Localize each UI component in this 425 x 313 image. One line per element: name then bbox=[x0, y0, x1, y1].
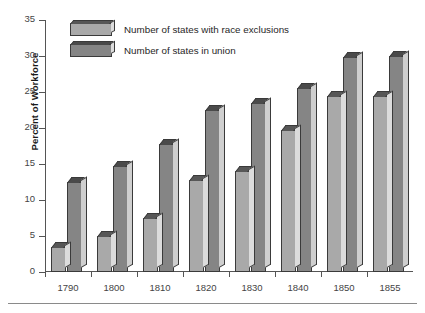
y-tick-label: 25 bbox=[11, 85, 35, 96]
y-tick-label: 10 bbox=[11, 193, 35, 204]
y-tick-mark bbox=[39, 164, 46, 165]
bar-side-face bbox=[403, 51, 409, 268]
y-tick-mark bbox=[39, 20, 46, 21]
swatch-top-face bbox=[70, 41, 114, 45]
bar-1800-race-exclusions bbox=[97, 236, 112, 272]
x-tick-mark bbox=[183, 271, 184, 277]
x-tick-mark bbox=[229, 271, 230, 277]
bar-side-face bbox=[265, 97, 271, 268]
bar-1855-race-exclusions bbox=[373, 96, 388, 272]
legend-swatch-race-exclusions bbox=[70, 23, 112, 36]
swatch-side-face bbox=[111, 40, 115, 53]
x-tick-label: 1840 bbox=[275, 282, 321, 293]
legend-label-states-in-union: Number of states in union bbox=[124, 45, 236, 56]
bar-1820-race-exclusions bbox=[189, 180, 204, 272]
x-tick-mark bbox=[91, 271, 92, 277]
y-tick-label: 30 bbox=[11, 49, 35, 60]
bar-1840-race-exclusions bbox=[281, 130, 296, 272]
y-tick: 30 bbox=[39, 56, 46, 57]
bar-side-face bbox=[111, 231, 117, 268]
bar-chart: Percent of Workforce 05101520253035 1790… bbox=[0, 0, 425, 313]
bar-1790-race-exclusions bbox=[51, 247, 66, 272]
y-tick-mark bbox=[39, 128, 46, 129]
bar-side-face bbox=[157, 213, 163, 268]
bar-side-face bbox=[341, 90, 347, 268]
y-tick: 35 bbox=[39, 20, 46, 21]
swatch-top-face bbox=[70, 20, 114, 24]
x-tick-mark bbox=[45, 271, 46, 277]
y-tick-mark bbox=[39, 236, 46, 237]
bar-1830-race-exclusions bbox=[235, 171, 250, 272]
y-tick-mark bbox=[39, 92, 46, 93]
x-tick-label: 1855 bbox=[367, 282, 413, 293]
bar-side-face bbox=[387, 90, 393, 268]
y-tick: 15 bbox=[39, 164, 46, 165]
x-tick-mark bbox=[367, 271, 368, 277]
bar-side-face bbox=[357, 52, 363, 268]
y-tick-label: 0 bbox=[11, 265, 35, 276]
y-tick: 25 bbox=[39, 92, 46, 93]
y-tick-label: 20 bbox=[11, 121, 35, 132]
y-tick: 10 bbox=[39, 200, 46, 201]
bar-side-face bbox=[81, 177, 87, 268]
bar-1810-race-exclusions bbox=[143, 218, 158, 272]
bar-side-face bbox=[249, 166, 255, 268]
y-tick-label: 5 bbox=[11, 229, 35, 240]
x-tick-label: 1810 bbox=[137, 282, 183, 293]
swatch-side-face bbox=[111, 19, 115, 32]
y-tick-mark bbox=[39, 56, 46, 57]
y-tick-mark bbox=[39, 200, 46, 201]
x-tick-mark bbox=[275, 271, 276, 277]
y-tick: 20 bbox=[39, 128, 46, 129]
x-tick-label: 1820 bbox=[183, 282, 229, 293]
x-tick-label: 1800 bbox=[91, 282, 137, 293]
bar-1850-race-exclusions bbox=[327, 96, 342, 272]
bar-side-face bbox=[173, 138, 179, 268]
bar-side-face bbox=[311, 83, 317, 268]
bar-side-face bbox=[203, 174, 209, 268]
x-tick-label: 1790 bbox=[45, 282, 91, 293]
bar-side-face bbox=[65, 241, 71, 268]
footer-divider bbox=[8, 303, 417, 304]
y-tick-label: 35 bbox=[11, 13, 35, 24]
y-tick-label: 15 bbox=[11, 157, 35, 168]
x-tick-label: 1850 bbox=[321, 282, 367, 293]
legend-swatch-states-in-union bbox=[70, 44, 112, 57]
legend-item: Number of states with race exclusions bbox=[70, 19, 289, 39]
x-tick-mark bbox=[321, 271, 322, 277]
bar-side-face bbox=[219, 105, 225, 268]
y-tick: 5 bbox=[39, 236, 46, 237]
legend-item: Number of states in union bbox=[70, 40, 289, 60]
legend-label-race-exclusions: Number of states with race exclusions bbox=[124, 24, 289, 35]
y-axis-line bbox=[45, 20, 46, 272]
bar-side-face bbox=[295, 125, 301, 268]
bar-side-face bbox=[127, 161, 133, 268]
x-tick-mark bbox=[137, 271, 138, 277]
chart-legend: Number of states with race exclusions Nu… bbox=[70, 19, 289, 61]
x-tick-label: 1830 bbox=[229, 282, 275, 293]
